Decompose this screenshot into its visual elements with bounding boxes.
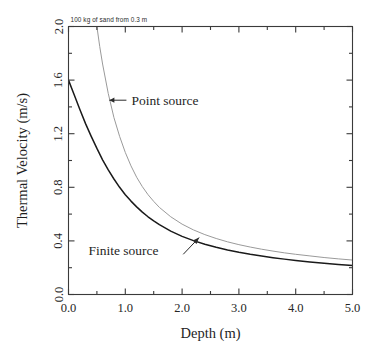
thermal-velocity-depth-chart: 0.01.02.03.04.05.00.00.40.81.21.62.0Dept… [0, 0, 379, 358]
finite-source-label: Finite source [88, 243, 158, 258]
y-tick-label: 1.2 [52, 126, 66, 142]
point-source-label: Point source [131, 93, 198, 108]
series-annotations: Point sourceFinite source [88, 93, 199, 258]
x-tick-label: 4.0 [288, 301, 304, 315]
tick-labels: 0.01.02.03.04.05.00.00.40.81.21.62.0Dept… [14, 19, 360, 342]
y-tick-label: 0.4 [52, 232, 66, 248]
figure-container: 0.01.02.03.04.05.00.00.40.81.21.62.0Dept… [0, 0, 379, 358]
y-tick-label: 1.6 [52, 72, 66, 88]
y-tick-label: 2.0 [52, 19, 66, 35]
x-tick-label: 5.0 [345, 301, 361, 315]
y-axis-title: Thermal Velocity (m/s) [14, 93, 31, 228]
chart-note: 100 kg of sand from 0.3 m [71, 16, 148, 24]
x-axis-title: Depth (m) [181, 325, 241, 342]
x-tick-label: 2.0 [174, 301, 190, 315]
curve-finite-source [69, 80, 353, 265]
y-tick-label: 0.8 [52, 179, 66, 195]
curve-point-source [94, 0, 352, 260]
x-tick-label: 3.0 [231, 301, 247, 315]
x-tick-label: 1.0 [117, 301, 133, 315]
y-tick-label: 0.0 [52, 287, 66, 303]
curves-group [69, 0, 353, 266]
